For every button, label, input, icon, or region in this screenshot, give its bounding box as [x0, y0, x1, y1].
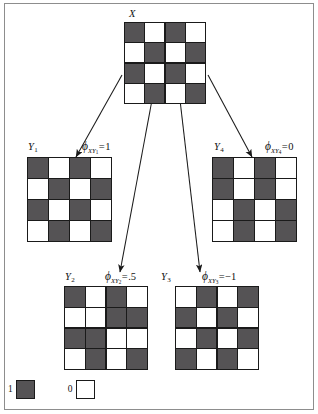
legend-item-0: 0: [68, 380, 95, 399]
cell-Y4-r1c1: [213, 158, 233, 178]
cell-Y3-r4c1: [176, 349, 196, 369]
cell-Y3-r3c1: [176, 329, 196, 349]
cell-X-r2c1: [125, 43, 144, 62]
cell-Y4-r4c3: [255, 221, 275, 241]
cell-Y3-r1c3: [218, 287, 238, 307]
cell-Y1-r3c3: [70, 200, 90, 220]
cell-X-r3c1: [125, 64, 144, 83]
cell-Y1-r2c3: [70, 179, 90, 199]
cell-X-r1c2: [145, 23, 164, 42]
matrix-X-grid: [124, 22, 206, 104]
cell-Y1-r4c1: [28, 221, 48, 241]
matrix-Y2-grid: [64, 286, 148, 370]
cell-X-r4c3: [166, 84, 185, 103]
panel-label-X: X: [129, 8, 136, 19]
cell-Y3-r1c4: [238, 287, 258, 307]
legend-value-0: 0: [68, 384, 76, 394]
cell-Y2-r4c3: [107, 349, 127, 369]
cell-Y2-r1c3: [107, 287, 127, 307]
cell-Y3-r2c2: [197, 308, 217, 328]
panel-label-Y3: Y3: [161, 271, 171, 284]
cell-Y2-r1c1: [65, 287, 85, 307]
cell-Y2-r3c2: [86, 329, 106, 349]
phi-value-Y2: .5: [128, 271, 136, 282]
cell-Y3-r1c1: [176, 287, 196, 307]
cell-X-r4c4: [186, 84, 205, 103]
panel-label-X-var: X: [129, 8, 136, 19]
cell-Y3-r2c4: [238, 308, 258, 328]
panel-label-Y2: Y2: [65, 271, 75, 284]
phi-sub-Y1: XY1: [88, 147, 98, 154]
cell-Y4-r1c4: [276, 158, 296, 178]
cell-Y1-r2c2: [49, 179, 69, 199]
cell-Y4-r2c3: [255, 179, 275, 199]
cell-Y3-r3c2: [197, 329, 217, 349]
legend-value-1: 1: [8, 384, 16, 394]
panel-label-Y1-sub: 1: [34, 146, 38, 154]
phi-label-Y4: ϕXY4=0: [265, 140, 293, 155]
cell-Y1-r2c4: [91, 179, 111, 199]
matrix-Y4-grid: [212, 157, 297, 242]
cell-Y3-r4c2: [197, 349, 217, 369]
phi-value-Y3: −1: [225, 271, 236, 282]
legend-item-1: 1: [8, 380, 35, 399]
cell-Y2-r3c1: [65, 329, 85, 349]
matrix-Y2: [64, 286, 148, 370]
cell-Y3-r3c4: [238, 329, 258, 349]
cell-Y4-r1c3: [255, 158, 275, 178]
cell-Y3-r4c4: [238, 349, 258, 369]
cell-Y1-r1c2: [49, 158, 69, 178]
cell-X-r1c3: [166, 23, 185, 42]
matrix-Y4: [212, 157, 297, 242]
phi-sub-Y4: XY4: [271, 147, 281, 154]
cell-Y2-r2c1: [65, 308, 85, 328]
phi-sub-Y2: XY2: [111, 277, 121, 284]
cell-Y4-r2c1: [213, 179, 233, 199]
cell-X-r1c4: [186, 23, 205, 42]
cell-Y4-r4c1: [213, 221, 233, 241]
cell-X-r1c1: [125, 23, 144, 42]
phi-coefficient-figure: X Y1 ϕXY1=1 Y4 ϕXY4=0 Y2 ϕXY2=.5 Y3 ϕXY3…: [0, 0, 318, 414]
cell-Y3-r2c1: [176, 308, 196, 328]
phi-value-Y1: 1: [105, 141, 110, 152]
cell-Y2-r1c2: [86, 287, 106, 307]
cell-Y4-r2c2: [234, 179, 254, 199]
cell-Y1-r4c3: [70, 221, 90, 241]
matrix-Y3: [175, 286, 259, 370]
cell-Y2-r4c1: [65, 349, 85, 369]
cell-Y4-r3c4: [276, 200, 296, 220]
cell-Y4-r3c3: [255, 200, 275, 220]
cell-Y2-r2c4: [127, 308, 147, 328]
phi-value-Y4: 0: [288, 141, 293, 152]
legend-swatch-filled: [16, 380, 35, 399]
cell-X-r2c4: [186, 43, 205, 62]
cell-X-r3c2: [145, 64, 164, 83]
panel-label-Y4: Y4: [214, 141, 224, 154]
matrix-Y3-grid: [175, 286, 259, 370]
arrow-x-to-y2: [120, 100, 152, 272]
phi-sub-Y3: XY3: [208, 277, 218, 284]
arrow-x-to-y3: [180, 100, 200, 272]
panel-label-Y4-sub: 4: [220, 146, 224, 154]
cell-Y2-r1c4: [127, 287, 147, 307]
cell-X-r4c2: [145, 84, 164, 103]
phi-label-Y3: ϕXY3=−1: [202, 270, 236, 285]
cell-Y1-r2c1: [28, 179, 48, 199]
cell-X-r2c3: [166, 43, 185, 62]
cell-Y4-r3c2: [234, 200, 254, 220]
cell-Y3-r1c2: [197, 287, 217, 307]
cell-Y1-r3c4: [91, 200, 111, 220]
phi-label-Y2: ϕXY2=.5: [105, 270, 136, 285]
cell-Y2-r2c3: [107, 308, 127, 328]
cell-Y2-r4c4: [127, 349, 147, 369]
cell-X-r3c3: [166, 64, 185, 83]
cell-X-r2c2: [145, 43, 164, 62]
cell-Y1-r3c1: [28, 200, 48, 220]
cell-Y1-r3c2: [49, 200, 69, 220]
cell-Y4-r3c1: [213, 200, 233, 220]
legend: 1 0: [8, 378, 95, 400]
cell-X-r3c4: [186, 64, 205, 83]
cell-Y1-r1c1: [28, 158, 48, 178]
cell-Y2-r2c2: [86, 308, 106, 328]
phi-label-Y1: ϕXY1=1: [82, 140, 110, 155]
